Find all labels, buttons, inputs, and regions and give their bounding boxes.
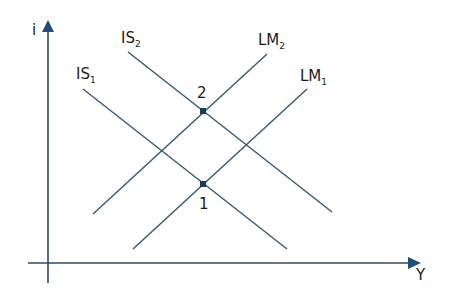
diagram-canvas: [0, 0, 450, 297]
lm1-curve: [133, 89, 307, 249]
equilibrium-point-2: [200, 108, 206, 114]
point-2-label: 2: [197, 86, 207, 101]
is2-label-sub: 2: [135, 39, 141, 49]
is2-label-base: IS: [121, 29, 135, 47]
lm2-label-sub: 2: [279, 41, 285, 51]
x-axis-label: Y: [416, 268, 425, 283]
lm1-label-sub: 1: [321, 77, 327, 87]
lm2-label-base: LM: [258, 31, 279, 49]
lm1-label: LM1: [300, 69, 327, 87]
lm2-label: LM2: [258, 33, 285, 51]
lm1-label-base: LM: [300, 67, 321, 85]
y-axis-arrow-icon: [42, 20, 54, 32]
y-axis-label: i: [32, 23, 36, 38]
is1-curve: [83, 89, 287, 249]
is-lm-diagram: i Y IS2 IS1 LM2 LM1 2 1: [0, 0, 450, 297]
lm2-curve: [93, 54, 267, 214]
is1-label-sub: 1: [90, 75, 96, 85]
is1-label-base: IS: [76, 65, 90, 83]
point-1-label: 1: [199, 197, 209, 212]
is1-label: IS1: [76, 67, 96, 85]
equilibrium-point-1: [200, 181, 206, 187]
is2-label: IS2: [121, 31, 141, 49]
